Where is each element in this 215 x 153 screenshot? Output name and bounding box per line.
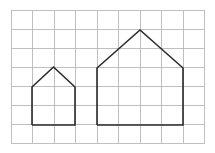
- grid-and-shapes-svg: [0, 0, 215, 153]
- figure-canvas: [0, 0, 215, 153]
